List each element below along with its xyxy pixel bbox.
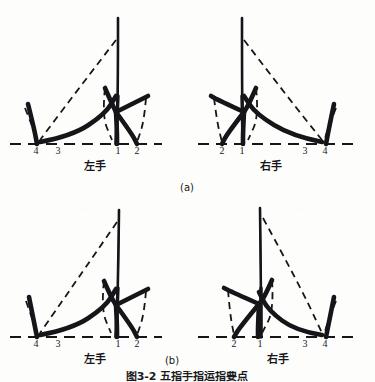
tick-label-a-left-2: 3	[52, 146, 64, 156]
tick-label-b-left-4: 2	[131, 339, 143, 349]
tick-label-a-right-2: 1	[236, 146, 248, 156]
stroke-core-down-stroke-2-b-right	[234, 304, 259, 337]
stroke-core-splay-right-arm-b-left	[116, 289, 148, 305]
tick-label-b-right-3: 3	[299, 339, 311, 349]
subfigure-label-b: (b)	[155, 356, 189, 366]
hand-label-a-left: 左手	[72, 161, 118, 172]
hand-label-a-right: 右手	[248, 161, 294, 172]
tick-label-b-right-2: 1	[254, 339, 266, 349]
dashed-right-arc-b-left	[137, 291, 146, 335]
tick-label-b-left-2: 3	[52, 339, 64, 349]
tick-label-a-right-3: 3	[299, 146, 311, 156]
hand-label-b-left: 左手	[72, 354, 118, 365]
stroke-core-right-outer-hook-b-right	[326, 297, 334, 337]
stroke-core-right-outer-hook-a-right	[326, 104, 334, 144]
stroke-core-left-outer-hook-a-left	[28, 104, 37, 144]
tick-label-b-right-1: 2	[228, 339, 240, 349]
stroke-long-sweep-b-left	[40, 289, 116, 335]
figure-caption: 图3-2 五指手指运指要点	[72, 371, 302, 382]
tick-label-a-left-4: 2	[131, 146, 143, 156]
tick-label-b-left-1: 4	[30, 339, 42, 349]
tick-label-a-right-4: 4	[319, 146, 331, 156]
dashed-apex-to-right-b-right	[263, 218, 322, 333]
stroke-long-sweep-b-right	[259, 292, 322, 335]
hand-label-b-right: 右手	[255, 354, 301, 365]
tick-label-a-left-3: 1	[112, 146, 124, 156]
tick-label-a-left-1: 4	[30, 146, 42, 156]
tick-label-b-left-3: 1	[112, 339, 124, 349]
tick-label-b-right-4: 4	[319, 339, 331, 349]
spike-tip-b-left	[118, 210, 119, 288]
stroke-core-down-stroke-1-b-right	[258, 304, 259, 337]
stroke-core-splay-right-arm-a-left	[116, 96, 148, 112]
stroke-core-left-outer-hook-b-left	[29, 297, 37, 337]
stroke-core-splay-left-arm-a-right	[211, 96, 244, 112]
dashed-left-arc-b-right	[228, 290, 234, 335]
subfigure-label-a: (a)	[170, 183, 204, 193]
dashed-right-arc-a-left	[137, 98, 146, 142]
spike-tip-b-right	[260, 208, 261, 288]
dashed-apex-to-left-b-left	[40, 222, 117, 333]
tick-label-a-right-1: 2	[216, 146, 228, 156]
stroke-core-long-sweep-b-right	[259, 292, 322, 335]
stroke-core-long-sweep-b-left	[40, 289, 116, 335]
dashed-left-arc-a-right	[214, 98, 222, 142]
